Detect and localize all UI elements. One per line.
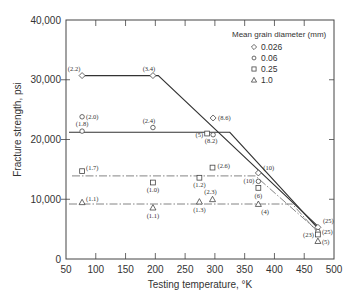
point-label: (1.8) bbox=[76, 120, 88, 128]
point-label: (10) bbox=[244, 177, 255, 185]
plot-frame bbox=[66, 20, 334, 259]
y-axis-title: Fracture strength, psi bbox=[12, 82, 23, 176]
x-tick-label: 250 bbox=[177, 264, 194, 275]
x-tick-label: 500 bbox=[326, 264, 343, 275]
point-label: (1.3) bbox=[193, 206, 205, 214]
marker-triangle bbox=[210, 196, 216, 201]
point-label: (2.2) bbox=[68, 65, 80, 73]
point-label: (1.1) bbox=[86, 195, 98, 203]
point-label: (8.6) bbox=[218, 114, 230, 122]
chart-svg: (2.2)(3.4)(8.6)(10)(25)(2.0)(1.8)(2.4)(8… bbox=[0, 0, 354, 301]
legend-entry-label: 0.06 bbox=[261, 53, 278, 63]
marker-square bbox=[151, 180, 156, 185]
marker-diamond bbox=[210, 115, 216, 121]
marker-diamond bbox=[79, 73, 85, 79]
point-label: (5) bbox=[196, 131, 204, 139]
point-label: (6) bbox=[255, 192, 263, 200]
point-label: (1.0) bbox=[147, 186, 159, 194]
point-label: (2.4) bbox=[143, 117, 155, 125]
point-label: (1.7) bbox=[86, 164, 98, 172]
marker-diamond bbox=[150, 73, 156, 79]
marker-circle bbox=[80, 129, 85, 134]
marker-square bbox=[256, 185, 261, 190]
legend-marker-triangle bbox=[251, 77, 256, 82]
point-label: (3.4) bbox=[143, 65, 155, 73]
marker-square bbox=[210, 165, 215, 170]
marker-diamond bbox=[255, 170, 261, 176]
x-tick-label: 200 bbox=[147, 264, 164, 275]
point-label: (2.3) bbox=[204, 188, 216, 196]
y-tick-label: 30,000 bbox=[30, 74, 61, 85]
point-label: (23) bbox=[303, 231, 314, 239]
y-tick-label: 40,000 bbox=[30, 15, 61, 26]
fit-line-0.026 bbox=[84, 76, 319, 228]
marker-circle bbox=[80, 115, 85, 120]
point-label: (1.1) bbox=[147, 212, 159, 220]
legend-marker-circle bbox=[252, 56, 256, 60]
marker-circle bbox=[256, 179, 261, 184]
x-tick-label: 150 bbox=[117, 264, 134, 275]
marker-circle bbox=[151, 125, 156, 130]
legend-marker-diamond bbox=[251, 44, 256, 49]
legend-title: Mean grain diameter (mm) bbox=[232, 30, 327, 39]
point-label: (25) bbox=[322, 228, 333, 236]
marker-square bbox=[197, 175, 202, 180]
x-tick-label: 450 bbox=[296, 264, 313, 275]
plot-border bbox=[66, 20, 334, 259]
legend-entry-label: 0.25 bbox=[261, 64, 278, 74]
legend: Mean grain diameter (mm)0.0260.060.251.0 bbox=[232, 30, 327, 85]
point-label: (8.2) bbox=[205, 137, 217, 145]
marker-triangle bbox=[79, 199, 85, 204]
point-label: (25) bbox=[323, 217, 334, 225]
marker-triangle bbox=[315, 238, 321, 243]
y-tick-label: 10,000 bbox=[30, 194, 61, 205]
marker-square bbox=[80, 169, 85, 174]
x-tick-label: 350 bbox=[236, 264, 253, 275]
point-label: (4) bbox=[261, 208, 269, 216]
y-tick-label: 20,000 bbox=[30, 134, 61, 145]
axes: 50100150200250300350400450500010,00020,0… bbox=[12, 15, 343, 291]
legend-marker-square bbox=[252, 67, 256, 71]
x-tick-label: 50 bbox=[60, 264, 72, 275]
point-label: (10) bbox=[263, 164, 274, 172]
marker-triangle bbox=[150, 205, 156, 210]
marker-square bbox=[205, 131, 210, 136]
legend-entry-label: 1.0 bbox=[261, 75, 273, 85]
x-axis-title: Testing temperature, °K bbox=[148, 279, 253, 290]
legend-entry-label: 0.026 bbox=[261, 42, 283, 52]
point-annotations: (2.2)(3.4)(8.6)(10)(25)(2.0)(1.8)(2.4)(8… bbox=[68, 65, 334, 247]
x-tick-label: 400 bbox=[266, 264, 283, 275]
point-label: (2.6) bbox=[218, 162, 230, 170]
x-tick-label: 100 bbox=[87, 264, 104, 275]
marker-triangle bbox=[196, 199, 202, 204]
y-tick-label: 0 bbox=[55, 254, 61, 265]
point-label: (5) bbox=[322, 238, 330, 246]
x-tick-label: 300 bbox=[207, 264, 224, 275]
chart-container: (2.2)(3.4)(8.6)(10)(25)(2.0)(1.8)(2.4)(8… bbox=[0, 0, 354, 301]
data-points bbox=[79, 73, 321, 244]
marker-square bbox=[316, 232, 321, 237]
